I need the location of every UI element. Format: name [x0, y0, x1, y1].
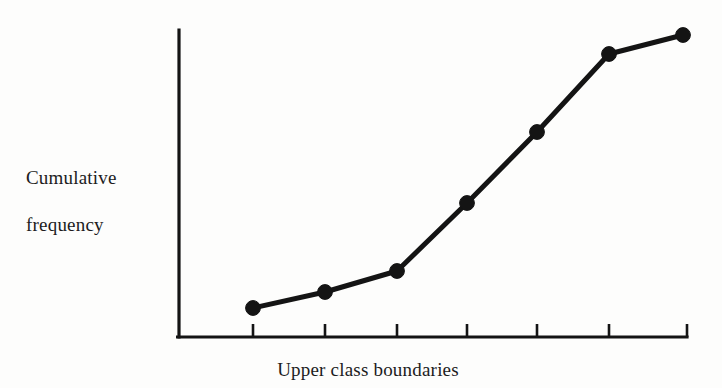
y-axis-label: Cumulative frequency	[26, 143, 176, 259]
data-line	[253, 35, 683, 308]
data-point-7	[676, 28, 691, 43]
y-axis-label-line-1: Cumulative	[26, 166, 176, 189]
data-point-1	[246, 301, 261, 316]
axes	[178, 30, 687, 337]
cumulative-frequency-figure: Cumulative frequency Upper class boundar…	[0, 0, 722, 388]
data-point-4	[460, 196, 475, 211]
data-point-2	[318, 285, 333, 300]
data-point-5	[530, 125, 545, 140]
data-point-3	[390, 264, 405, 279]
ogive-polyline	[253, 35, 683, 308]
x-axis-ticks	[253, 324, 687, 337]
x-axis-label: Upper class boundaries	[277, 358, 459, 381]
y-axis-label-line-2: frequency	[26, 213, 176, 236]
data-point-6	[602, 47, 617, 62]
data-markers	[246, 28, 691, 316]
x-axis-label-wrapper: Upper class boundaries	[0, 358, 722, 381]
